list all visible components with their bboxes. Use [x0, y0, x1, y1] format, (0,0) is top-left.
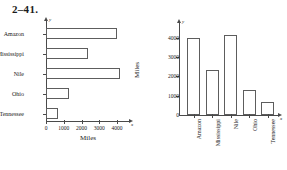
- right-chart-x-tick: [249, 114, 250, 118]
- right-chart-x-tick: [231, 114, 232, 118]
- left-chart-bar-nile: [46, 68, 120, 79]
- horizontal-bar-chart: y x Amazon Mississippi Nile Ohio Tenness…: [0, 18, 143, 170]
- vertical-bar-chart: y x 0 1000 2000 3000 4000 Amazon Mississ…: [143, 18, 287, 170]
- right-chart-y-tick-label: 2000: [168, 73, 179, 79]
- left-chart-x-tick: [117, 120, 118, 124]
- figure-container: 2–41. y x Amazon Mississippi Nile Ohio T…: [0, 0, 287, 170]
- left-chart-category-label-tennessee: Tennessee: [0, 111, 24, 117]
- left-chart-x-tick-label: 0: [45, 125, 48, 131]
- left-chart-category-label-ohio: Ohio: [12, 91, 24, 97]
- right-chart-category-label-ohio: Ohio: [252, 119, 258, 131]
- right-chart-category-label-tennessee: Tennessee: [270, 119, 276, 144]
- left-chart-x-tick-label: 2000: [76, 125, 87, 131]
- left-chart-bar-tennessee: [46, 108, 58, 119]
- right-chart-bar-amazon: [187, 38, 200, 115]
- left-chart-category-label-amazon: Amazon: [4, 31, 24, 37]
- right-chart-category-label-amazon: Amazon: [196, 119, 202, 139]
- figure-number: 2–41.: [12, 3, 38, 15]
- left-chart-x-tick: [46, 120, 47, 124]
- right-chart-y-tick-label: 1000: [168, 93, 179, 99]
- right-chart-y-axis: [179, 22, 180, 116]
- right-chart-y-axis-arrow-icon: [177, 19, 181, 23]
- right-chart-x-tick: [212, 114, 213, 118]
- left-chart-x-tick: [82, 120, 83, 124]
- right-chart-y-axis-letter: y: [182, 19, 184, 24]
- left-chart-y-axis-letter: y: [49, 17, 51, 22]
- right-chart-bar-nile: [224, 35, 237, 115]
- left-chart-x-tick-label: 4000: [112, 125, 123, 131]
- right-chart-x-tick: [194, 114, 195, 118]
- right-chart-bar-mississippi: [206, 70, 219, 115]
- left-chart-x-tick: [99, 120, 100, 124]
- left-chart-x-axis-title: Miles: [46, 134, 130, 142]
- left-chart-x-tick-label: 3000: [94, 125, 105, 131]
- left-chart-y-axis-arrow-icon: [44, 17, 48, 21]
- right-chart-x-tick: [268, 114, 269, 118]
- right-chart-y-axis-title: Miles: [133, 62, 141, 78]
- left-chart-x-tick: [64, 120, 65, 124]
- right-chart-y-tick-label: 3000: [168, 54, 179, 60]
- left-chart-category-label-mississippi: Mississippi: [0, 51, 24, 57]
- right-chart-y-zero-label: 0: [176, 112, 179, 118]
- left-chart-bar-mississippi: [46, 48, 88, 59]
- left-chart-category-label-nile: Nile: [14, 71, 24, 77]
- right-chart-y-tick-label: 4000: [168, 35, 179, 41]
- left-chart-bar-amazon: [46, 28, 117, 39]
- right-chart-category-label-nile: Nile: [233, 119, 239, 129]
- right-chart-category-label-mississippi: Mississippi: [215, 119, 221, 146]
- right-chart-x-axis-letter: x: [280, 116, 282, 121]
- left-chart-bar-ohio: [46, 88, 69, 99]
- left-chart-x-tick-label: 1000: [58, 125, 69, 131]
- right-chart-bar-ohio: [243, 90, 256, 115]
- left-chart-x-axis-letter: x: [131, 122, 133, 127]
